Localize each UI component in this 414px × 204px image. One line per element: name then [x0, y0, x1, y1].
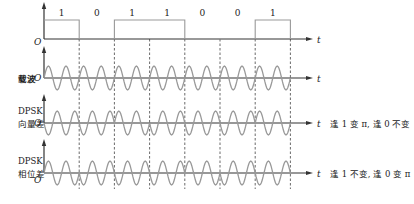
row-label: 相位差 [18, 169, 45, 179]
rule-annotation: 逢 1 不变, 逢 0 变 π [330, 169, 411, 179]
bit-value-label: 1 [59, 8, 65, 18]
bit-value-label: 0 [200, 8, 206, 18]
row-carrier: tO载波 [18, 46, 321, 90]
row-label: DPSK [18, 156, 43, 166]
time-axis-arrow-icon [306, 37, 313, 41]
row-data: tO1011001 [34, 2, 321, 47]
bit-boundary-dashed-lines [79, 39, 290, 189]
waveform-rows: tO1011001tO载波tODPSK向量差逢 1 变 π, 逢 0 不变tOD… [18, 2, 411, 185]
time-axis-label: t [317, 35, 321, 45]
y-axis-arrow-icon [42, 139, 46, 146]
origin-label: O [34, 37, 42, 47]
row-label: 向量差 [18, 119, 45, 129]
y-axis-arrow-icon [42, 94, 46, 101]
dpsk-waveform-diagram: tO1011001tO载波tODPSK向量差逢 1 变 π, 逢 0 不变tOD… [0, 0, 414, 204]
time-axis-label: t [317, 119, 321, 129]
bit-value-label: 1 [164, 8, 170, 18]
bit-value-label: 0 [94, 8, 100, 18]
row-dpsk-phase: tODPSK相位差逢 1 不变, 逢 0 变 π [18, 139, 411, 185]
bit-value-label: 1 [129, 8, 135, 18]
time-axis-arrow-icon [306, 171, 313, 175]
y-axis-arrow-icon [42, 46, 46, 53]
row-label: DPSK [18, 106, 43, 116]
time-axis-label: t [317, 74, 321, 84]
time-axis-arrow-icon [306, 121, 313, 125]
binary-pulse-waveform [44, 20, 290, 39]
row-dpsk-vector: tODPSK向量差逢 1 变 π, 逢 0 不变 [18, 94, 410, 135]
y-axis-arrow-icon [42, 2, 46, 9]
time-axis-arrow-icon [306, 76, 313, 80]
time-axis-label: t [317, 169, 321, 179]
bit-value-label: 1 [270, 8, 276, 18]
bit-value-label: 0 [235, 8, 241, 18]
row-label: 载波 [18, 74, 36, 84]
rule-annotation: 逢 1 变 π, 逢 0 不变 [330, 119, 410, 129]
